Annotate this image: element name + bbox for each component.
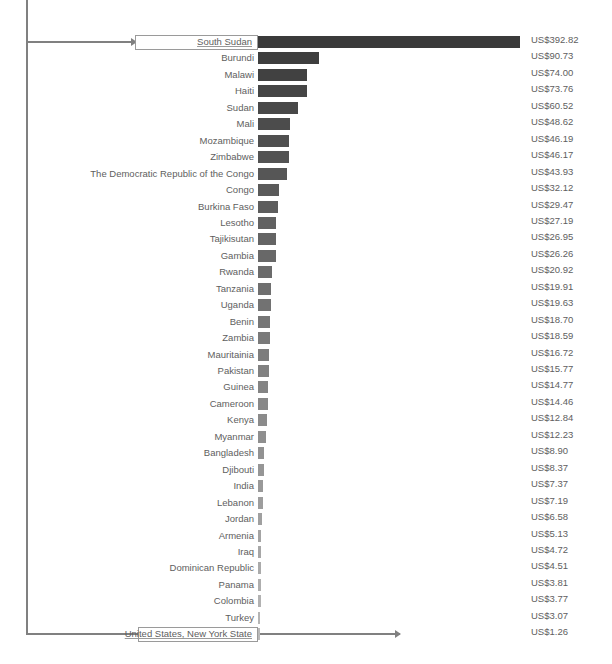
bar-track: US$48.62 bbox=[258, 116, 612, 132]
bar-row[interactable]: ColombiaUS$3.77 bbox=[0, 593, 612, 609]
bar[interactable] bbox=[258, 36, 520, 48]
bar-row[interactable]: TanzaniaUS$19.91 bbox=[0, 281, 612, 297]
category-label-text: United States, New York State bbox=[125, 628, 252, 640]
bar-row[interactable]: South SudanUS$392.82 bbox=[0, 34, 612, 50]
bar-row[interactable]: MalawiUS$74.00 bbox=[0, 67, 612, 83]
bar[interactable] bbox=[258, 266, 272, 278]
bar-row[interactable]: TurkeyUS$3.07 bbox=[0, 610, 612, 626]
bar[interactable] bbox=[258, 628, 260, 640]
bar-row[interactable]: CameroonUS$14.46 bbox=[0, 396, 612, 412]
bar-row[interactable]: SudanUS$60.52 bbox=[0, 100, 612, 116]
bar[interactable] bbox=[258, 52, 319, 64]
bar[interactable] bbox=[258, 414, 267, 426]
bar[interactable] bbox=[258, 562, 261, 574]
value-label: US$3.77 bbox=[531, 593, 568, 605]
bar-row[interactable]: ZimbabweUS$46.17 bbox=[0, 149, 612, 165]
bar-track: US$3.07 bbox=[258, 610, 612, 626]
bar-row[interactable]: IndiaUS$7.37 bbox=[0, 478, 612, 494]
bar-track: US$18.70 bbox=[258, 314, 612, 330]
bar[interactable] bbox=[258, 102, 298, 114]
bar-track: US$26.95 bbox=[258, 231, 612, 247]
bar[interactable] bbox=[258, 398, 268, 410]
category-label: Cameroon bbox=[0, 398, 258, 410]
value-label: US$48.62 bbox=[531, 116, 573, 128]
bar[interactable] bbox=[258, 233, 276, 245]
bar[interactable] bbox=[258, 349, 269, 361]
bar[interactable] bbox=[258, 250, 276, 262]
bar[interactable] bbox=[258, 579, 261, 591]
bar[interactable] bbox=[258, 546, 261, 558]
bar-row[interactable]: MozambiqueUS$46.19 bbox=[0, 133, 612, 149]
bar[interactable] bbox=[258, 513, 262, 525]
bar-row[interactable]: RwandaUS$20.92 bbox=[0, 264, 612, 280]
category-label-text: Guinea bbox=[223, 381, 254, 393]
bar[interactable] bbox=[258, 85, 307, 97]
bar-row[interactable]: PanamaUS$3.81 bbox=[0, 577, 612, 593]
bar[interactable] bbox=[258, 118, 290, 130]
bar-row[interactable]: The Democratic Republic of the CongoUS$4… bbox=[0, 166, 612, 182]
bar-track: US$4.72 bbox=[258, 544, 612, 560]
bar-row[interactable]: TajikisutanUS$26.95 bbox=[0, 231, 612, 247]
category-label-text: Jordan bbox=[225, 513, 254, 525]
bar-row[interactable]: BangladeshUS$8.90 bbox=[0, 445, 612, 461]
bar[interactable] bbox=[258, 365, 269, 377]
bar-row[interactable]: DjiboutiUS$8.37 bbox=[0, 462, 612, 478]
bar-row[interactable]: GuineaUS$14.77 bbox=[0, 379, 612, 395]
bar[interactable] bbox=[258, 530, 261, 542]
bar[interactable] bbox=[258, 217, 276, 229]
bar-row[interactable]: LebanonUS$7.19 bbox=[0, 495, 612, 511]
category-label-text: Congo bbox=[226, 184, 254, 196]
bar-row[interactable]: JordanUS$6.58 bbox=[0, 511, 612, 527]
bar[interactable] bbox=[258, 612, 260, 624]
bar-row[interactable]: HaitiUS$73.76 bbox=[0, 83, 612, 99]
category-label-text: India bbox=[233, 480, 254, 492]
bar[interactable] bbox=[258, 201, 278, 213]
bar-row[interactable]: ZambiaUS$18.59 bbox=[0, 330, 612, 346]
bar[interactable] bbox=[258, 464, 264, 476]
bar-row[interactable]: UgandaUS$19.63 bbox=[0, 297, 612, 313]
bar[interactable] bbox=[258, 184, 279, 196]
bar-track: US$16.72 bbox=[258, 347, 612, 363]
category-label-text: Sudan bbox=[227, 102, 254, 114]
category-label-text: Burundi bbox=[221, 52, 254, 64]
bar-row[interactable]: LesothoUS$27.19 bbox=[0, 215, 612, 231]
bar-row[interactable]: PakistanUS$15.77 bbox=[0, 363, 612, 379]
bar[interactable] bbox=[258, 595, 261, 607]
bar[interactable] bbox=[258, 447, 264, 459]
bar[interactable] bbox=[258, 283, 271, 295]
bar[interactable] bbox=[258, 497, 263, 509]
bar-row[interactable]: United States, New York StateUS$1.26 bbox=[0, 626, 612, 642]
bar[interactable] bbox=[258, 381, 268, 393]
category-label: Iraq bbox=[0, 546, 258, 558]
bar[interactable] bbox=[258, 151, 289, 163]
category-label: Panama bbox=[0, 579, 258, 591]
bar-row[interactable]: Dominican RepublicUS$4.51 bbox=[0, 560, 612, 576]
bar-row[interactable]: BeninUS$18.70 bbox=[0, 314, 612, 330]
bar-row[interactable]: IraqUS$4.72 bbox=[0, 544, 612, 560]
bar[interactable] bbox=[258, 168, 287, 180]
value-label: US$14.77 bbox=[531, 379, 573, 391]
value-label: US$3.81 bbox=[531, 577, 568, 589]
bar-row[interactable]: GambiaUS$26.26 bbox=[0, 248, 612, 264]
bar-track: US$5.13 bbox=[258, 528, 612, 544]
bar-row[interactable]: KenyaUS$12.84 bbox=[0, 412, 612, 428]
category-label: Jordan bbox=[0, 513, 258, 525]
bar[interactable] bbox=[258, 69, 307, 81]
bar[interactable] bbox=[258, 135, 289, 147]
category-label-text: Kenya bbox=[227, 414, 254, 426]
bar[interactable] bbox=[258, 332, 270, 344]
bar[interactable] bbox=[258, 480, 263, 492]
bar[interactable] bbox=[258, 299, 271, 311]
bar-track: US$1.26 bbox=[258, 626, 612, 642]
category-label-text: Tajikisutan bbox=[210, 233, 254, 245]
bar-row[interactable]: MaliUS$48.62 bbox=[0, 116, 612, 132]
bar-row[interactable]: BurundiUS$90.73 bbox=[0, 50, 612, 66]
category-label-text: Lesotho bbox=[220, 217, 254, 229]
bar[interactable] bbox=[258, 316, 270, 328]
bar-row[interactable]: MyanmarUS$12.23 bbox=[0, 429, 612, 445]
bar-row[interactable]: CongoUS$32.12 bbox=[0, 182, 612, 198]
bar-row[interactable]: Burkina FasoUS$29.47 bbox=[0, 199, 612, 215]
bar-row[interactable]: ArmeniaUS$5.13 bbox=[0, 528, 612, 544]
bar-row[interactable]: MauritainiaUS$16.72 bbox=[0, 347, 612, 363]
bar[interactable] bbox=[258, 431, 266, 443]
